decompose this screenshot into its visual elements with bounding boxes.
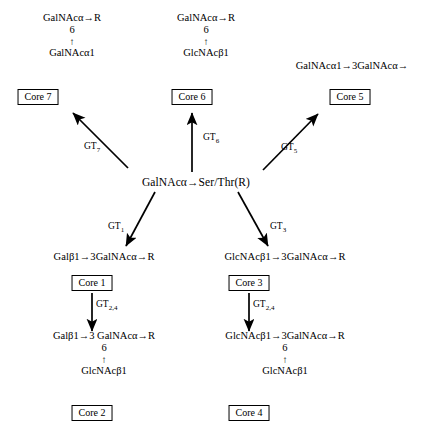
gt6-text: GT (203, 132, 216, 142)
core-box-5[interactable]: Core 5 (330, 89, 371, 105)
core-box-5-label: Core 5 (337, 91, 364, 102)
core2-line4: GlcNAcβ1 (81, 365, 127, 376)
core2-line1: Galβ1→3 GalNAcα→R (53, 330, 155, 341)
core-box-2-label: Core 2 (79, 407, 106, 418)
enzyme-label-gt3: GT3 (270, 222, 286, 234)
arrow-gt3 (238, 192, 268, 246)
core3-structure-label: GlcNAcβ1→3GalNAcα→R (224, 251, 345, 262)
core-box-3-label: Core 3 (236, 277, 263, 288)
gt5-text: GT (281, 142, 294, 152)
core-box-6-label: Core 6 (179, 91, 206, 102)
structure-core7: GalNAcα→R 6 ↑ GalNAcα1 (43, 12, 101, 59)
hub-node-galnac-ser-thr: GalNAcα→Ser/Thr(R) (142, 176, 250, 188)
enzyme-label-gt1: GT1 (108, 222, 124, 234)
structure-core6: GalNAcα→R 6 ↑ GlcNAcβ1 (177, 12, 235, 59)
arrow-gt7 (73, 113, 128, 168)
gt24-right-subscript: 2,4 (266, 304, 275, 312)
core-box-3[interactable]: Core 3 (229, 275, 270, 291)
core7-line1: GalNAcα→R (43, 12, 101, 23)
diagram-canvas: GalNAcα→R 6 ↑ GalNAcα1 GalNAcα→R 6 ↑ Glc… (0, 0, 422, 432)
gt1-subscript: 1 (121, 226, 125, 234)
enzyme-label-gt24-left: GT2,4 (96, 300, 117, 312)
enzyme-label-gt5: GT5 (281, 143, 297, 155)
gt7-text: GT (84, 141, 97, 151)
structure-core3-product: GlcNAcβ1→3GalNAcα→R (224, 251, 345, 262)
core5-line1: GalNAcα1→3GalNAcα→ (296, 60, 408, 71)
core7-position: 6 (69, 24, 74, 35)
core4-line1: GlcNAcβ1→3GalNAcα→R (225, 330, 344, 341)
core2-position: 6 (101, 342, 106, 353)
core-box-6[interactable]: Core 6 (172, 89, 213, 105)
enzyme-label-gt6: GT6 (203, 133, 219, 145)
gt3-text: GT (270, 221, 283, 231)
core-box-2[interactable]: Core 2 (72, 405, 113, 421)
core-box-4[interactable]: Core 4 (229, 405, 270, 421)
gt24-left-subscript: 2,4 (109, 304, 118, 312)
gt6-subscript: 6 (216, 137, 220, 145)
core4-position: 6 (282, 342, 287, 353)
core1-structure-label: Galβ1→3GalNAcα→R (53, 251, 154, 262)
core4-line4: GlcNAcβ1 (262, 365, 308, 376)
gt5-subscript: 5 (294, 147, 298, 155)
structure-core2-product: Galβ1→3 GalNAcα→R 6 ↑ GlcNAcβ1 (53, 330, 155, 377)
gt24-right-text: GT (253, 299, 266, 309)
core6-line4: GlcNAcβ1 (183, 47, 229, 58)
gt7-subscript: 7 (97, 146, 101, 154)
gt24-left-text: GT (96, 299, 109, 309)
core-box-7-label: Core 7 (25, 91, 52, 102)
arrow-gt1 (126, 192, 155, 246)
core-box-1-label: Core 1 (79, 277, 106, 288)
structure-core5: GalNAcα1→3GalNAcα→ (296, 60, 408, 72)
gt1-text: GT (108, 221, 121, 231)
core-box-7[interactable]: Core 7 (18, 89, 59, 105)
enzyme-label-gt24-right: GT2,4 (253, 300, 274, 312)
core-box-4-label: Core 4 (236, 407, 263, 418)
gt3-subscript: 3 (283, 226, 287, 234)
core6-position: 6 (203, 24, 208, 35)
core-box-1[interactable]: Core 1 (72, 275, 113, 291)
core6-line1: GalNAcα→R (177, 12, 235, 23)
core7-line4: GalNAcα1 (49, 47, 95, 58)
structure-core4-product: GlcNAcβ1→3GalNAcα→R 6 ↑ GlcNAcβ1 (225, 330, 344, 377)
structure-core1-product: Galβ1→3GalNAcα→R (53, 251, 154, 262)
hub-node-label: GalNAcα→Ser/Thr(R) (142, 176, 250, 188)
enzyme-label-gt7: GT7 (84, 142, 100, 154)
